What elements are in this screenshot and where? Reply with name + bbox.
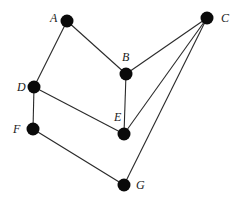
node-label-g: G: [136, 178, 145, 192]
node-a: [61, 15, 74, 28]
nodes-group: [27, 12, 214, 192]
edge-a-b: [67, 21, 126, 74]
node-label-f: F: [12, 122, 21, 136]
node-d: [28, 81, 41, 94]
node-label-c: C: [221, 11, 230, 25]
edge-a-d: [34, 21, 67, 87]
edge-c-e: [124, 18, 207, 134]
node-label-e: E: [113, 110, 122, 124]
node-g: [118, 179, 131, 192]
edges-group: [33, 18, 207, 185]
node-c: [201, 12, 214, 25]
node-b: [120, 68, 133, 81]
node-e: [118, 128, 131, 141]
edge-d-e: [34, 87, 124, 134]
edge-b-c: [126, 18, 207, 74]
node-label-d: D: [16, 80, 26, 94]
node-label-a: A: [49, 11, 58, 25]
edge-c-g: [124, 18, 207, 185]
edge-b-e: [124, 74, 126, 134]
edge-f-g: [33, 129, 124, 185]
node-f: [27, 123, 40, 136]
node-label-b: B: [122, 50, 130, 64]
graph-diagram: ABCDEFG: [0, 0, 238, 201]
